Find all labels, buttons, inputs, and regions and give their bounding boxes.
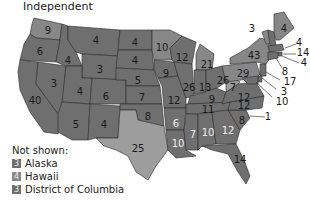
label-OR: 6	[37, 46, 43, 57]
legend-label: District of Columbia	[25, 183, 124, 196]
label-TN: 11	[202, 104, 215, 115]
legend-swatch: 3	[12, 185, 21, 194]
label-ID: 4	[65, 55, 71, 66]
label-VT: 3	[249, 23, 255, 34]
label-OH: 26	[217, 75, 230, 86]
label-AR: 6	[173, 118, 179, 129]
label-CO: 6	[103, 91, 109, 102]
state-RI	[278, 52, 282, 56]
label-MO: 12	[168, 95, 181, 106]
label-RI: 4	[301, 57, 307, 68]
label-MN: 10	[156, 42, 169, 53]
label-MD: 10	[276, 96, 289, 107]
label-WA: 9	[45, 25, 51, 36]
label-IN: 13	[199, 82, 212, 93]
legend-item-hawaii: 4 Hawaii	[12, 170, 124, 183]
legend-item-dc: 3 District of Columbia	[12, 183, 124, 196]
label-LA: 10	[172, 138, 185, 149]
legend: Not shown: 3 Alaska 4 Hawaii 3 District …	[12, 144, 124, 196]
label-MT: 4	[93, 35, 99, 46]
label-MS: 7	[190, 129, 196, 140]
label-ME: 4	[281, 23, 287, 34]
label-NM: 4	[101, 119, 107, 130]
label-AZ: 5	[73, 119, 79, 130]
label-GA: 12	[222, 125, 235, 136]
label-ND: 4	[132, 37, 138, 48]
state-DE	[258, 76, 262, 82]
state-NJ	[260, 64, 266, 76]
label-PA: 29	[237, 68, 250, 79]
label-IL: 26	[183, 82, 196, 93]
label-UT: 4	[77, 86, 83, 97]
label-OK: 8	[145, 111, 151, 122]
legend-swatch: 4	[12, 172, 21, 181]
label-NY: 43	[248, 50, 261, 61]
label-MI: 21	[201, 59, 214, 70]
legend-item-alaska: 3 Alaska	[12, 157, 124, 170]
label-KS: 7	[139, 92, 145, 103]
legend-label: Alaska	[25, 157, 58, 170]
legend-label: Hawaii	[25, 170, 59, 183]
label-TX: 25	[132, 143, 145, 154]
label-FL: 14	[234, 154, 247, 165]
label-WY: 3	[97, 64, 103, 75]
label-WV: 7	[230, 82, 236, 93]
legend-swatch: 3	[12, 159, 21, 168]
legend-heading: Not shown:	[12, 144, 124, 157]
label-SD: 4	[132, 55, 138, 66]
label-NV: 3	[51, 78, 57, 89]
label-AL: 10	[202, 127, 215, 138]
label-CA: 40	[29, 95, 42, 106]
label-SC: 8	[239, 115, 245, 126]
label-DC: 1	[265, 111, 271, 122]
label-NE: 5	[135, 75, 141, 86]
label-VA: 12	[238, 92, 251, 103]
label-WI: 12	[176, 52, 189, 63]
label-IA: 9	[163, 68, 169, 79]
